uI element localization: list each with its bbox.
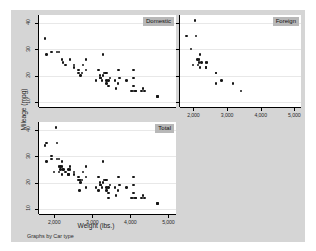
data-point [67,168,70,171]
chart-figure: Mileage (mpg) Weight (lbs.) Graphs by Ca… [11,10,305,242]
data-point [44,37,47,40]
data-point [62,61,65,64]
gridline [39,209,176,210]
data-point [220,79,223,82]
data-point [102,160,105,163]
data-point [118,184,121,187]
data-point [79,74,82,77]
y-axis-tick [35,49,38,50]
data-point [125,79,128,82]
y-axis-tick-label: 10 [25,201,31,215]
data-point [115,87,118,90]
data-point [45,160,48,163]
data-point [117,82,120,85]
panel-foreign-label: Foreign [273,17,299,26]
data-point [117,69,120,72]
y-axis-tick-label: 20 [25,175,31,189]
data-point [130,197,133,200]
gridline [39,156,176,157]
x-axis-tick-label: 2,000 [181,112,205,118]
gridline [39,49,176,50]
y-axis-tick [35,76,38,77]
x-axis-tick-label: 3,000 [215,112,239,118]
data-point [156,95,159,98]
x-axis-tick [294,108,295,111]
data-point [67,173,70,176]
data-point [134,197,137,200]
data-point [117,189,120,192]
panel-domestic-label: Domestic [143,17,174,26]
data-point [64,64,67,67]
data-point [56,142,59,145]
y-axis-tick [35,130,38,131]
data-point [215,72,218,75]
data-point [97,189,100,192]
gridline [180,102,301,103]
y-axis-tick [35,183,38,184]
data-point [232,82,235,85]
gridline [39,102,176,103]
data-point [195,35,198,38]
y-axis-tick-label: 30 [25,149,31,163]
gridline [39,183,176,184]
y-axis-tick-label: 40 [25,15,31,29]
y-axis-line [38,122,39,214]
data-point [97,69,100,72]
data-point [200,61,203,64]
data-point [114,79,117,82]
y-axis-line [179,15,180,107]
data-point [105,82,108,85]
data-point [73,173,76,176]
x-axis-tick-label: 5,000 [156,219,180,225]
data-point [132,85,135,88]
y-axis-tick [176,23,179,24]
data-point [143,90,146,93]
x-axis-tick [227,108,228,111]
data-point [78,179,81,182]
panel-foreign: Foreign [180,15,301,107]
data-point [107,197,110,200]
x-axis-tick [130,215,131,218]
data-point [105,179,108,182]
gridline [39,76,176,77]
data-point [58,51,61,54]
data-point [205,61,208,64]
panel-domestic: Domestic [39,15,176,107]
data-point [50,158,53,161]
y-axis-tick-label: 20 [25,68,31,82]
gridline [180,76,301,77]
x-axis-line [39,107,176,108]
panel-total: Total [39,122,176,214]
data-point [205,66,208,69]
gridline [180,49,301,50]
data-point [69,58,72,61]
data-point [143,197,146,200]
x-axis-line [39,214,176,215]
data-point [125,186,128,189]
data-point [132,69,135,72]
y-axis-tick [35,156,38,157]
x-axis-tick [54,215,55,218]
y-axis-tick [35,23,38,24]
x-axis-line [180,107,301,108]
data-point [105,72,108,75]
data-point [107,186,110,189]
y-axis-tick [35,209,38,210]
panel-total-label: Total [155,124,174,133]
data-point [78,189,81,192]
data-point [194,19,197,22]
x-axis-tick [261,108,262,111]
data-point [53,171,56,174]
data-point [240,90,243,93]
y-axis-tick-label: 30 [25,42,31,56]
data-point [85,176,88,179]
data-point [101,79,104,82]
y-axis-tick [35,102,38,103]
data-point [82,171,85,174]
x-axis-tick-label: 4,000 [249,112,273,118]
data-point [156,202,159,205]
y-axis-tick [176,76,179,77]
data-point [105,189,108,192]
x-axis-tick [92,215,93,218]
data-point [102,74,105,77]
